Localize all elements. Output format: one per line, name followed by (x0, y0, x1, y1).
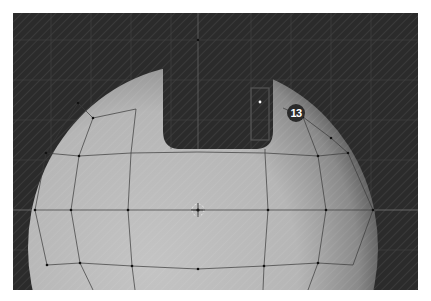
mesh-hole (163, 51, 273, 149)
3d-viewport[interactable]: 13 (13, 13, 418, 290)
viewport-canvas[interactable] (13, 13, 418, 290)
callout-badge: 13 (287, 104, 305, 122)
selected-vertex (259, 101, 262, 104)
